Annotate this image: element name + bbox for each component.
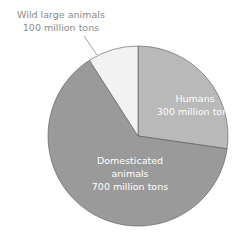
label-wild-large-animals: Wild large animals 100 million tons — [2, 8, 120, 34]
label-domesticated-name-2: animals — [70, 167, 190, 180]
label-humans-name: Humans — [150, 92, 240, 105]
label-humans: Humans 300 million tons — [150, 92, 240, 118]
wild-label-leader-line — [84, 36, 97, 55]
label-domesticated-animals: Domesticated animals 700 million tons — [70, 154, 190, 193]
label-domesticated-name-1: Domesticated — [70, 154, 190, 167]
label-humans-value: 300 million tons — [150, 105, 240, 118]
label-wild-name: Wild large animals — [2, 8, 120, 21]
pie-chart — [0, 0, 244, 236]
label-domesticated-value: 700 million tons — [70, 180, 190, 193]
label-wild-value: 100 million tons — [2, 21, 120, 34]
